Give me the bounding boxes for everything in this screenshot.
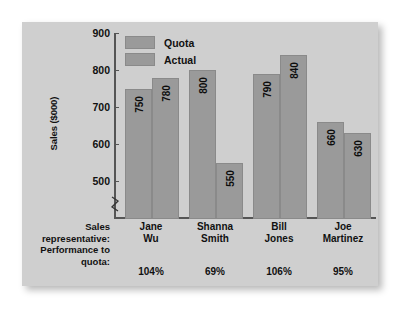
- column-name-bill-jones: Bill Jones: [246, 220, 312, 244]
- column-name-line1: Shanna: [182, 221, 248, 233]
- chart-figure: Sales ($000) 900 800 700 600 500: [0, 0, 408, 310]
- column-pct-shanna-smith: 69%: [182, 266, 248, 277]
- table-column-joe-martinez: Joe Martinez 95%: [310, 220, 376, 244]
- column-name-line1: Jane: [118, 221, 184, 233]
- legend-label-quota: Quota: [164, 37, 194, 49]
- legend-item-quota[interactable]: Quota: [125, 34, 196, 51]
- table-column-bill-jones: Bill Jones 106%: [246, 220, 312, 244]
- legend: Quota Actual: [125, 34, 196, 68]
- bar-value-780: 780: [160, 85, 171, 102]
- column-pct-bill-jones: 106%: [246, 266, 312, 277]
- column-name-jane-wu: Jane Wu: [118, 220, 184, 244]
- table-column-jane-wu: Jane Wu 104%: [118, 220, 184, 244]
- row-label-rep-line2: representative:: [20, 233, 110, 245]
- row-label-performance-to-quota: Performance to quota:: [20, 244, 110, 267]
- chart-panel: Sales ($000) 900 800 700 600 500: [22, 22, 378, 286]
- bar-value-840: 840: [288, 62, 299, 79]
- column-name-line2: Smith: [182, 233, 248, 245]
- column-name-joe-martinez: Joe Martinez: [310, 220, 376, 244]
- bar-quota-jane-wu[interactable]: 750: [125, 89, 152, 219]
- legend-swatch-quota: [125, 36, 155, 49]
- bar-quota-joe-martinez[interactable]: 660: [317, 122, 344, 219]
- bar-value-790: 790: [261, 81, 272, 98]
- table-column-shanna-smith: Shanna Smith 69%: [182, 220, 248, 244]
- column-pct-jane-wu: 104%: [118, 266, 184, 277]
- column-name-line2: Jones: [246, 233, 312, 245]
- row-label-perf-line1: Performance to: [20, 244, 110, 256]
- column-name-line1: Bill: [246, 221, 312, 233]
- row-label-perf-line2: quota:: [20, 256, 110, 268]
- column-name-line2: Wu: [118, 233, 184, 245]
- row-label-rep-line1: Sales: [20, 221, 110, 233]
- bar-quota-bill-jones[interactable]: 790: [253, 74, 280, 219]
- legend-item-actual[interactable]: Actual: [125, 51, 196, 68]
- bar-value-800: 800: [197, 77, 208, 94]
- bar-quota-shanna-smith[interactable]: 800: [189, 70, 216, 219]
- bar-value-750: 750: [133, 96, 144, 113]
- bar-value-550: 550: [224, 170, 235, 187]
- bar-actual-bill-jones[interactable]: 840: [280, 55, 307, 219]
- bar-value-630: 630: [352, 140, 363, 157]
- bar-actual-jane-wu[interactable]: 780: [152, 78, 179, 219]
- legend-swatch-actual: [125, 53, 155, 66]
- bar-value-660: 660: [325, 129, 336, 146]
- row-label-sales-representative: Sales representative:: [20, 221, 110, 244]
- data-table: Sales representative: Performance to quo…: [22, 220, 378, 284]
- column-name-shanna-smith: Shanna Smith: [182, 220, 248, 244]
- bar-actual-joe-martinez[interactable]: 630: [344, 133, 371, 219]
- column-name-line1: Joe: [310, 221, 376, 233]
- bar-actual-shanna-smith[interactable]: 550: [216, 163, 243, 219]
- column-pct-joe-martinez: 95%: [310, 266, 376, 277]
- column-name-line2: Martinez: [310, 233, 376, 245]
- legend-label-actual: Actual: [164, 54, 196, 66]
